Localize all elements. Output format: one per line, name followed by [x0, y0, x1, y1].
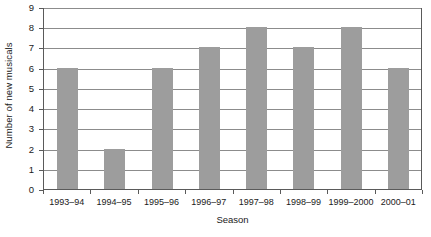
x-axis-tick-mark [233, 190, 234, 194]
y-axis-tick-label: 0 [16, 185, 34, 195]
bar-slot [280, 8, 327, 189]
y-axis-tick-label: 6 [16, 64, 34, 74]
y-axis-tick-label: 4 [16, 104, 34, 114]
y-axis-tick-label: 1 [16, 165, 34, 175]
y-axis-tick-label: 3 [16, 124, 34, 134]
bar-series [44, 8, 422, 189]
x-axis-tick-mark [375, 190, 376, 194]
x-axis-tick-label: 2000–01 [375, 195, 422, 211]
y-axis-title-text: Number of new musicals [3, 42, 14, 148]
x-axis-tick-label: 1995–96 [138, 195, 185, 211]
plot-right-border [421, 8, 422, 189]
x-axis-tick-mark [43, 190, 44, 194]
y-axis-tick-labels: 0123456789 [16, 8, 36, 190]
bar [57, 68, 78, 189]
y-axis-tick-label: 2 [16, 145, 34, 155]
y-axis-tick-label: 8 [16, 23, 34, 33]
bar-slot [91, 8, 138, 189]
x-axis-tick-mark [280, 190, 281, 194]
y-axis-tick-label: 7 [16, 43, 34, 53]
x-axis-tick-mark [185, 190, 186, 194]
bar [293, 47, 314, 189]
x-axis-tick-mark [90, 190, 91, 194]
x-axis-tick-label: 1998–99 [280, 195, 327, 211]
x-axis-tick-mark [138, 190, 139, 194]
x-axis-tick-mark [422, 190, 423, 194]
bar-slot [233, 8, 280, 189]
bar [388, 68, 409, 189]
x-axis-title: Season [43, 214, 422, 225]
x-axis-tick-label: 1994–95 [90, 195, 137, 211]
x-axis-tick-mark [327, 190, 328, 194]
x-axis-tick-label: 1997–98 [233, 195, 280, 211]
y-axis-title: Number of new musicals [0, 0, 16, 190]
plot-area [43, 8, 422, 190]
bar [152, 68, 173, 189]
x-axis-tick-label: 1999–2000 [327, 195, 374, 211]
y-axis-tick-label: 9 [16, 3, 34, 13]
y-axis-tick-label: 5 [16, 84, 34, 94]
bar-slot [139, 8, 186, 189]
bar-slot [375, 8, 422, 189]
bar-chart: Number of new musicals 0123456789 1993–9… [0, 0, 431, 237]
bar-slot [328, 8, 375, 189]
plot-inner [44, 8, 422, 189]
bar-slot [186, 8, 233, 189]
bar [246, 27, 267, 189]
bar [199, 47, 220, 189]
x-axis-tick-label: 1996–97 [185, 195, 232, 211]
bar [341, 27, 362, 189]
x-axis-tick-label: 1993–94 [43, 195, 90, 211]
bar [104, 149, 125, 189]
bar-slot [44, 8, 91, 189]
x-axis-tick-labels: 1993–941994–951995–961996–971997–981998–… [43, 195, 422, 211]
